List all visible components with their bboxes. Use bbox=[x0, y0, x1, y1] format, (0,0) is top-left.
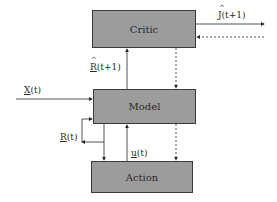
action-block: Action bbox=[91, 161, 193, 193]
action-label: Action bbox=[126, 172, 159, 183]
j-hat-label: J(t+1) bbox=[218, 11, 246, 20]
r-hat-label: R(t+1) bbox=[90, 63, 121, 72]
model-label: Model bbox=[129, 101, 161, 112]
critic-block: Critic bbox=[92, 10, 196, 48]
r-feedback-loop-up bbox=[82, 119, 92, 142]
r-label: R(t) bbox=[60, 133, 77, 142]
critic-label: Critic bbox=[130, 24, 158, 35]
x-label: X(t) bbox=[24, 86, 41, 95]
model-block: Model bbox=[93, 89, 196, 124]
u-label: u(t) bbox=[131, 149, 147, 158]
